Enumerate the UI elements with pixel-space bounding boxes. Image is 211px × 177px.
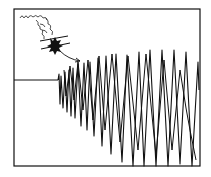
arrow-icon [60,51,80,61]
smoke-icon [20,16,53,40]
explosion-icon [40,36,70,55]
seismograph-illustration [0,0,211,177]
waveform-trace [58,50,199,166]
